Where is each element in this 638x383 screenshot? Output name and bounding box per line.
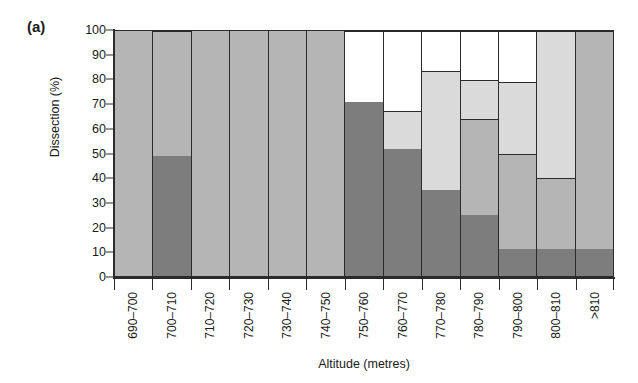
bar-column[interactable] — [345, 31, 383, 276]
bar-segment — [422, 31, 459, 71]
x-tick-label: 770–780 — [435, 292, 447, 339]
x-label-cell: 740–750 — [306, 292, 344, 354]
x-label-cell: 790–800 — [499, 292, 537, 354]
x-label-cell: 800–810 — [537, 292, 575, 354]
x-tick-cell — [345, 279, 383, 291]
bar-column[interactable] — [576, 31, 613, 276]
x-tick-mark — [268, 279, 269, 290]
bar-column[interactable] — [422, 31, 460, 276]
bar-segment — [461, 80, 498, 119]
bar-segment — [345, 102, 382, 276]
y-axis-line — [113, 29, 115, 278]
x-tick-mark — [306, 279, 307, 290]
x-tick-mark — [537, 279, 538, 290]
bar-column[interactable] — [461, 31, 499, 276]
x-tick-cell — [268, 279, 306, 291]
x-label-cell: 730–740 — [268, 292, 306, 354]
x-axis-tick-labels: 690–700700–710710–720720–730730–740740–7… — [114, 292, 614, 354]
bar-segment — [384, 149, 421, 276]
bar-segment — [345, 31, 382, 102]
x-tick-mark — [114, 279, 115, 290]
x-tick-cell — [114, 279, 152, 291]
y-tick-label: 40 — [92, 172, 106, 185]
x-label-cell: 720–730 — [229, 292, 267, 354]
x-tick-mark — [499, 279, 500, 290]
x-tick-mark — [576, 279, 577, 290]
x-tick-mark — [345, 279, 346, 290]
bar-segment — [230, 31, 267, 276]
x-label-cell: 710–720 — [191, 292, 229, 354]
y-tick-label: 60 — [92, 123, 106, 136]
x-tick-label: >810 — [589, 292, 601, 319]
bar-column[interactable] — [230, 31, 268, 276]
y-tick-label: 50 — [92, 147, 106, 160]
bar-segment — [499, 82, 536, 153]
x-label-cell: 760–770 — [383, 292, 421, 354]
bar-segment — [153, 156, 190, 276]
x-tick-cell — [229, 279, 267, 291]
x-axis-title: Altitude (metres) — [114, 357, 614, 371]
bar-segment — [461, 215, 498, 276]
figure-panel-a: (a) Dissection (%) 010203040506070809010… — [0, 0, 638, 383]
bar-column[interactable] — [269, 31, 307, 276]
bar-segment — [192, 31, 229, 276]
x-tick-cell — [383, 279, 421, 291]
y-tick-label: 100 — [85, 24, 106, 37]
bar-segment — [537, 249, 574, 276]
y-tick-label: 80 — [92, 73, 106, 86]
bar-segment — [384, 31, 421, 111]
x-tick-mark — [460, 279, 461, 290]
bar-segment — [307, 31, 344, 276]
x-tick-label: 720–730 — [243, 292, 255, 339]
x-tick-cell — [537, 279, 575, 291]
y-tick-label: 90 — [92, 48, 106, 61]
bar-segment — [499, 249, 536, 276]
x-tick-cell — [422, 279, 460, 291]
x-label-cell: 690–700 — [114, 292, 152, 354]
bar-segment — [499, 154, 536, 250]
x-tick-label: 740–750 — [320, 292, 332, 339]
x-label-cell: >810 — [576, 292, 614, 354]
x-tick-cell — [306, 279, 344, 291]
x-tick-mark — [613, 279, 614, 290]
bar-column[interactable] — [537, 31, 575, 276]
x-tick-mark — [422, 279, 423, 290]
x-label-cell: 750–760 — [345, 292, 383, 354]
bar-segment — [269, 31, 306, 276]
x-tick-label: 780–790 — [473, 292, 485, 339]
x-tick-cell — [576, 279, 614, 291]
x-tick-label: 760–770 — [397, 292, 409, 339]
x-axis-ticks — [114, 279, 614, 291]
x-tick-mark — [191, 279, 192, 290]
x-tick-label: 800–810 — [550, 292, 562, 339]
bar-segment — [499, 31, 536, 82]
bar-segment — [115, 31, 152, 276]
x-tick-cell — [499, 279, 537, 291]
x-tick-mark — [229, 279, 230, 290]
bar-column[interactable] — [115, 31, 153, 276]
y-tick-label: 0 — [99, 271, 106, 284]
x-tick-cell — [460, 279, 498, 291]
x-tick-mark — [383, 279, 384, 290]
bar-column[interactable] — [384, 31, 422, 276]
bar-column[interactable] — [153, 31, 191, 276]
x-tick-mark — [152, 279, 153, 290]
x-tick-label: 730–740 — [281, 292, 293, 339]
y-tick-label: 10 — [92, 246, 106, 259]
x-tick-label: 750–760 — [358, 292, 370, 339]
x-tick-cell — [152, 279, 190, 291]
x-tick-label: 700–710 — [166, 292, 178, 339]
panel-letter: (a) — [27, 18, 45, 35]
bar-segment — [422, 71, 459, 190]
bar-column[interactable] — [307, 31, 345, 276]
plot-area — [114, 30, 614, 277]
bar-segment — [153, 31, 190, 156]
x-tick-label: 690–700 — [127, 292, 139, 339]
y-axis-ticks: 0102030405060708090100 — [72, 30, 106, 277]
bar-segment — [461, 119, 498, 215]
bar-segment — [576, 249, 613, 276]
x-tick-label: 710–720 — [204, 292, 216, 339]
bar-column[interactable] — [499, 31, 537, 276]
x-tick-label: 790–800 — [512, 292, 524, 339]
bar-column[interactable] — [192, 31, 230, 276]
